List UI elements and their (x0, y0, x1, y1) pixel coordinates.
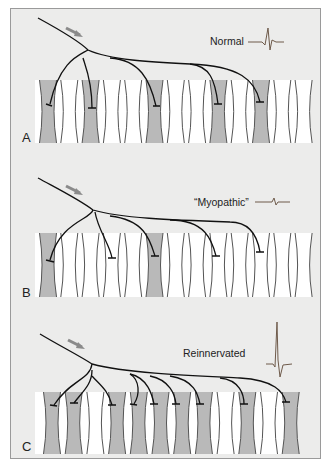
waveform-myopathic (255, 198, 290, 205)
label-normal: Normal (210, 35, 244, 47)
waveform-normal (248, 28, 284, 50)
panel-letter-a: A (22, 130, 31, 145)
label-reinnervated: Reinnervated (183, 347, 246, 359)
panel-letter-b: B (22, 285, 31, 300)
direction-arrow-c (68, 340, 85, 349)
motor-unit-diagram: Normal “Myopathic” Reinnervated A B C (0, 0, 332, 472)
label-myopathic: “Myopathic” (194, 196, 249, 208)
direction-arrow-b (66, 186, 83, 195)
waveform-reinnervated (266, 322, 292, 377)
panel-letter-c: C (22, 439, 31, 454)
